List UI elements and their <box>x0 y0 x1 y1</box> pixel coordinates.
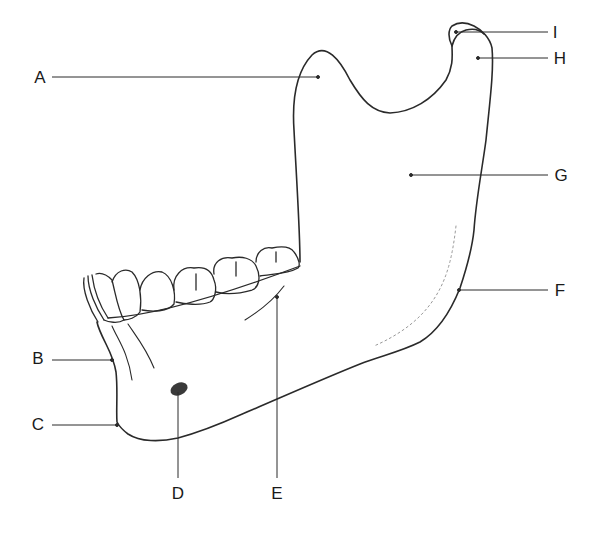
label-e: E <box>271 485 282 502</box>
label-a: A <box>34 69 45 86</box>
label-b: B <box>32 350 43 367</box>
incisor-roots <box>112 324 154 380</box>
oblique-line <box>245 286 284 320</box>
label-f: F <box>555 282 565 299</box>
label-h: H <box>554 50 566 67</box>
teeth <box>84 247 300 323</box>
label-g: G <box>554 167 567 184</box>
label-i: I <box>553 24 558 41</box>
mental-foramen <box>168 380 189 398</box>
label-d: D <box>172 485 184 502</box>
dotted-line <box>374 226 456 346</box>
label-c: C <box>32 416 44 433</box>
mandible-diagram <box>0 0 594 534</box>
mandible-outline <box>97 23 493 441</box>
